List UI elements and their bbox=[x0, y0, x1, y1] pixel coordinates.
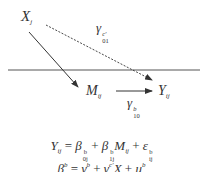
edge-mediator-sub: 10 bbox=[133, 113, 140, 120]
node-x-sub: j bbox=[30, 18, 32, 26]
eq1-plus1: + bbox=[88, 138, 102, 153]
eq2-equals: = bbox=[68, 161, 82, 172]
eq1-lhs: Y bbox=[50, 138, 57, 153]
eq2-x: X bbox=[114, 161, 122, 172]
edge-mediator-label: γb10 bbox=[127, 96, 140, 119]
node-y: Yij bbox=[158, 84, 170, 100]
edge-direct-sub: 01 bbox=[102, 38, 109, 45]
edge-direct-base: γ bbox=[96, 20, 101, 35]
node-m-base: M bbox=[86, 83, 98, 98]
x-to-m-arrow bbox=[29, 32, 78, 87]
eq1-equals: = bbox=[62, 138, 76, 153]
eq2-u-sup: b bbox=[142, 161, 146, 169]
eq1-plus2: + bbox=[129, 138, 143, 153]
eq1-m: M bbox=[114, 138, 125, 153]
node-m-sub: ij bbox=[98, 92, 102, 100]
equation-level2-partial: βb = γb + γc′X + ub bbox=[0, 161, 203, 172]
eq1-beta0: β bbox=[75, 138, 81, 153]
edge-direct-label: γc′01 bbox=[96, 21, 109, 44]
node-y-sub: ij bbox=[166, 92, 170, 100]
eq2-plus2: + bbox=[122, 161, 136, 172]
eq1-beta1: β bbox=[102, 138, 108, 153]
node-m: Mij bbox=[86, 84, 102, 100]
node-x-base: X bbox=[21, 8, 30, 24]
node-x: Xj bbox=[21, 9, 32, 26]
edge-mediator-base: γ bbox=[127, 95, 132, 110]
eq2-plus1: + bbox=[90, 161, 104, 172]
eq1-epsilon: ε bbox=[143, 138, 148, 153]
equation-level1: Yij = βb0j + βb1jMij + εbij bbox=[0, 138, 203, 162]
node-y-base: Y bbox=[158, 83, 166, 98]
